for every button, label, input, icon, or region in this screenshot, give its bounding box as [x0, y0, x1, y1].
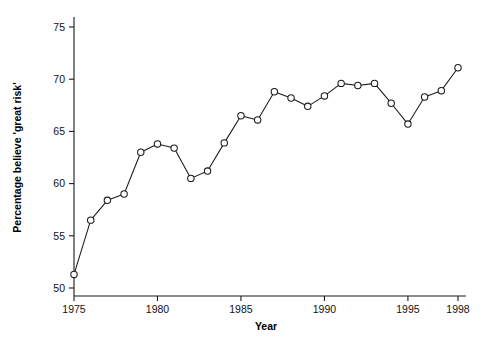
data-point[interactable]: 1979: 63	[138, 149, 144, 155]
y-tick-label: 60	[53, 177, 65, 189]
data-point[interactable]: 1975: 51.3	[71, 271, 77, 277]
data-point[interactable]: 1996: 68.3	[421, 94, 427, 100]
x-tick-label: 1990	[313, 303, 337, 315]
y-axis-ticks: 505560657075	[53, 21, 74, 294]
data-point[interactable]: 1994: 67.7	[388, 100, 394, 106]
x-axis-title: Year	[255, 320, 277, 332]
x-tick-label: 1980	[146, 303, 170, 315]
data-point[interactable]: 1976: 56.5	[88, 217, 94, 223]
data-point[interactable]: 1989: 67.4	[305, 103, 311, 109]
data-point-group: 1975: 51.31976: 56.51977: 58.41978: 5919…	[71, 65, 461, 278]
data-point[interactable]: 1984: 63.9	[221, 140, 227, 146]
data-point[interactable]: 1993: 69.6	[371, 80, 377, 86]
line-chart: 505560657075197519801985199019951998Year…	[0, 0, 487, 339]
y-tick-label: 65	[53, 125, 65, 137]
chart-figure: 505560657075197519801985199019951998Year…	[0, 0, 487, 339]
x-tick-label: 1975	[62, 303, 86, 315]
data-point[interactable]: 1995: 65.7	[405, 121, 411, 127]
y-tick-label: 75	[53, 21, 65, 33]
data-point[interactable]: 1987: 68.8	[271, 89, 277, 95]
data-point[interactable]: 1977: 58.4	[104, 197, 110, 203]
data-point[interactable]: 1998: 71.1	[455, 65, 461, 71]
axes-group	[74, 17, 466, 296]
data-point[interactable]: 1985: 66.5	[238, 113, 244, 119]
x-tick-label: 1995	[396, 303, 420, 315]
series-line	[74, 68, 458, 275]
y-tick-label: 50	[53, 282, 65, 294]
data-point[interactable]: 1990: 68.4	[321, 93, 327, 99]
data-point[interactable]: 1991: 69.6	[338, 80, 344, 86]
data-point[interactable]: 1992: 69.4	[355, 82, 361, 88]
data-point[interactable]: 1986: 66.1	[254, 117, 260, 123]
data-point[interactable]: 1980: 63.8	[154, 141, 160, 147]
y-axis-title: Percentage believe 'great risk'	[11, 82, 23, 232]
data-point[interactable]: 1983: 61.2	[204, 168, 210, 174]
data-point[interactable]: 1981: 63.4	[171, 145, 177, 151]
x-axis-ticks: 197519801985199019951998	[62, 296, 470, 315]
data-point[interactable]: 1982: 60.5	[188, 175, 194, 181]
x-tick-label: 1998	[446, 303, 470, 315]
x-tick-label: 1985	[229, 303, 253, 315]
data-point[interactable]: 1988: 68.2	[288, 95, 294, 101]
y-tick-label: 55	[53, 230, 65, 242]
data-point[interactable]: 1978: 59	[121, 191, 127, 197]
data-point[interactable]: 1997: 68.9	[438, 87, 444, 93]
y-tick-label: 70	[53, 73, 65, 85]
